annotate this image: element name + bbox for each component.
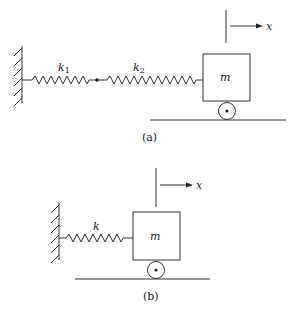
spring-k [59, 234, 133, 242]
spring-k1 [22, 76, 97, 84]
k1-label: k1 [58, 61, 70, 75]
wheel-axle-b [154, 268, 157, 271]
spring-k2 [97, 76, 203, 84]
mass-label-a: m [220, 71, 230, 84]
mass-label-b: m [150, 230, 160, 243]
wall-a [14, 46, 22, 106]
x-label-b: x [196, 179, 203, 192]
arrowhead-a [256, 24, 263, 29]
caption-a: (a) [142, 131, 157, 144]
figure-a: k1 k2 m x (a) [14, 10, 286, 144]
k2-label: k2 [133, 61, 145, 75]
wheel-axle-a [225, 109, 228, 112]
arrowhead-b [186, 183, 193, 188]
wall-b [51, 203, 59, 263]
k-label-b: k [93, 220, 100, 233]
spring-mass-diagram: k1 k2 m x (a) k m x (b) [0, 0, 301, 310]
caption-b: (b) [143, 290, 159, 303]
figure-b: k m x (b) [51, 168, 210, 303]
x-label-a: x [266, 20, 273, 33]
